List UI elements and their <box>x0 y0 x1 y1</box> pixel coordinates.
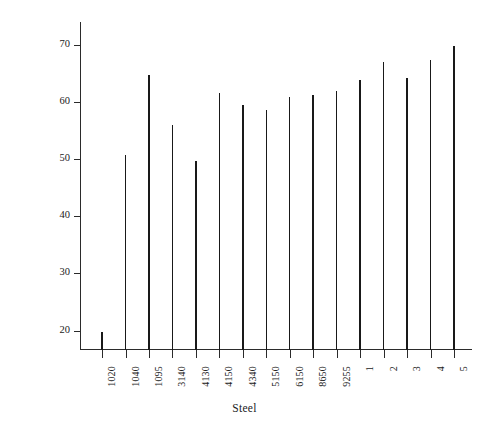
y-axis-tick: 70 <box>74 45 81 46</box>
x-axis-tick-label: 4150 <box>223 366 234 387</box>
x-axis-tick-label: 1040 <box>130 366 141 387</box>
bar <box>359 80 361 350</box>
x-axis-tick <box>290 350 291 358</box>
x-axis-tick <box>431 350 432 358</box>
x-axis-title: Steel <box>0 402 489 414</box>
x-axis-tick-label: 9255 <box>341 366 352 387</box>
bar <box>195 161 197 350</box>
x-axis-tick-label: 4340 <box>247 366 258 387</box>
bar <box>101 332 103 350</box>
x-axis-tick <box>266 350 267 358</box>
x-axis-tick <box>454 350 455 358</box>
x-axis-tick-label: 1020 <box>106 366 117 387</box>
y-axis-tick-label: 30 <box>60 266 71 277</box>
x-axis-tick <box>360 350 361 358</box>
plot-background <box>80 22 472 350</box>
x-axis-tick-label: 5 <box>458 366 469 371</box>
y-axis-tick: 50 <box>74 159 81 160</box>
chart-container: Rockwell C 203040506070 1020104010953140… <box>0 0 489 434</box>
x-axis-tick <box>313 350 314 358</box>
x-axis-tick-label: 4130 <box>200 366 211 387</box>
x-axis-tick-label: 6150 <box>294 366 305 387</box>
bar <box>172 125 174 350</box>
x-axis-tick-label: 3140 <box>176 366 187 387</box>
bar <box>312 95 314 350</box>
x-axis-tick <box>126 350 127 358</box>
x-axis-tick <box>196 350 197 358</box>
x-axis-tick <box>243 350 244 358</box>
bar <box>453 46 455 350</box>
y-axis-tick: 30 <box>74 273 81 274</box>
x-axis-tick-label: 1 <box>364 366 375 371</box>
y-axis-line <box>80 22 81 350</box>
x-axis-tick-label: 5150 <box>270 366 281 387</box>
plot-area: 203040506070 102010401095314041304150434… <box>80 22 472 350</box>
x-axis-tick <box>102 350 103 358</box>
x-axis-tick <box>337 350 338 358</box>
x-axis-tick-label: 8650 <box>317 366 328 387</box>
x-axis-tick-label: 2 <box>388 366 399 371</box>
bar <box>430 60 432 350</box>
bar <box>125 155 127 350</box>
bar <box>289 97 291 350</box>
y-axis-tick-label: 40 <box>60 209 71 220</box>
y-axis-tick: 20 <box>74 331 81 332</box>
x-axis-tick <box>219 350 220 358</box>
bar <box>148 75 150 350</box>
y-axis-tick-label: 70 <box>60 38 71 49</box>
y-axis-tick-label: 60 <box>60 95 71 106</box>
x-axis-tick <box>172 350 173 358</box>
bar <box>336 91 338 350</box>
y-axis-tick: 60 <box>74 102 81 103</box>
y-axis-tick: 40 <box>74 216 81 217</box>
x-axis-tick <box>384 350 385 358</box>
bar <box>242 105 244 350</box>
bar <box>219 93 221 350</box>
x-axis-tick <box>149 350 150 358</box>
x-axis-tick <box>407 350 408 358</box>
bar <box>406 78 408 350</box>
y-axis-tick-label: 20 <box>60 324 71 335</box>
x-axis-tick-label: 1095 <box>153 366 164 387</box>
bar <box>266 110 268 350</box>
x-axis-line <box>80 349 472 350</box>
x-axis-tick-label: 4 <box>435 366 446 371</box>
y-axis-tick-label: 50 <box>60 152 71 163</box>
bar <box>383 62 385 350</box>
x-axis-tick-label: 3 <box>411 366 422 371</box>
